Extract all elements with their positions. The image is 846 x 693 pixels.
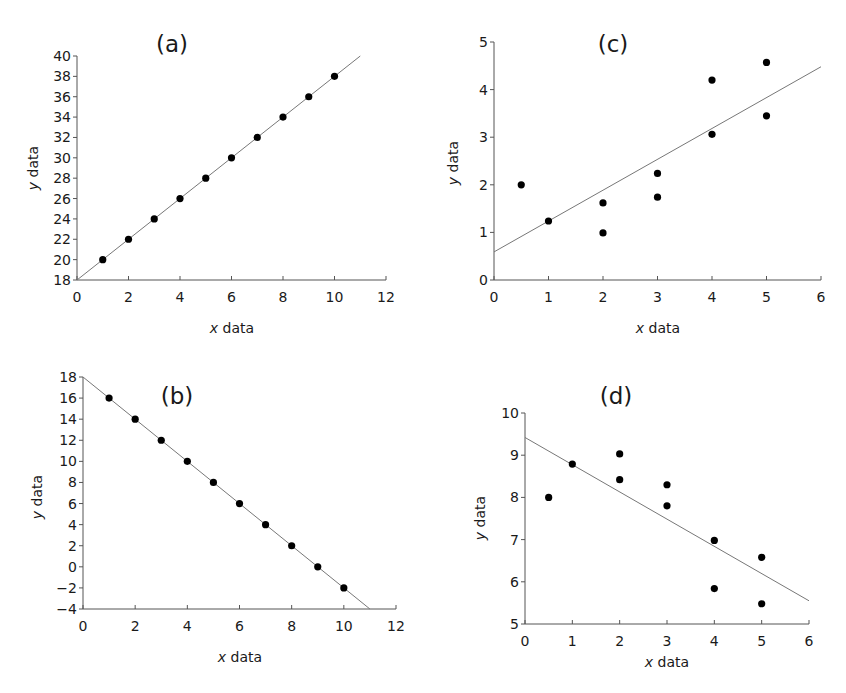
data-point <box>279 113 286 120</box>
y-tick-label: 5 <box>510 616 519 632</box>
panel-a: 182022242628303234363840024681012(a)x da… <box>25 31 395 336</box>
x-axis-label: x data <box>217 649 262 665</box>
fit-line <box>494 67 821 252</box>
x-tick-label: 4 <box>708 289 717 305</box>
x-axis-label: x data <box>635 320 680 336</box>
y-tick-label: 9 <box>510 447 519 463</box>
data-point <box>125 236 132 243</box>
data-point <box>758 600 765 607</box>
x-tick-label: 0 <box>79 618 88 634</box>
data-point <box>545 217 552 224</box>
y-tick-label: 14 <box>59 411 77 427</box>
data-point <box>184 458 191 465</box>
x-tick-label: 2 <box>599 289 608 305</box>
data-point <box>254 134 261 141</box>
y-tick-label: 6 <box>510 574 519 590</box>
data-point <box>314 563 321 570</box>
y-tick-label: 26 <box>53 191 71 207</box>
x-tick-label: 0 <box>73 289 82 305</box>
data-point <box>654 194 661 201</box>
y-tick-label: 4 <box>68 517 77 533</box>
x-tick-label: 10 <box>326 289 344 305</box>
x-tick-label: 0 <box>521 633 530 649</box>
y-axis-label: y data <box>25 146 41 191</box>
y-tick-label: 10 <box>59 453 77 469</box>
x-tick-label: 3 <box>663 633 672 649</box>
fit-line <box>77 56 360 280</box>
x-tick-label: 1 <box>544 289 553 305</box>
y-tick-label: 18 <box>59 369 77 385</box>
y-tick-label: 2 <box>68 538 77 554</box>
x-tick-label: 2 <box>124 289 133 305</box>
x-axis-label: x data <box>644 654 689 670</box>
panel-title: (d) <box>600 383 633 409</box>
x-tick-label: 3 <box>653 289 662 305</box>
panel-title: (b) <box>161 383 194 409</box>
data-point <box>663 502 670 509</box>
y-tick-label: 38 <box>53 68 71 84</box>
x-tick-label: 4 <box>710 633 719 649</box>
data-point <box>202 175 209 182</box>
y-tick-label: 20 <box>53 252 71 268</box>
y-tick-label: 6 <box>68 496 77 512</box>
x-tick-label: 4 <box>183 618 192 634</box>
y-tick-label: 0 <box>479 272 488 288</box>
y-tick-label: 30 <box>53 150 71 166</box>
y-axis-label: y data <box>29 475 45 520</box>
x-tick-label: 12 <box>377 289 395 305</box>
fit-line <box>525 437 809 600</box>
x-tick-label: 0 <box>490 289 499 305</box>
x-tick-label: 5 <box>757 633 766 649</box>
data-point <box>99 256 106 263</box>
x-tick-label: 12 <box>387 618 405 634</box>
data-point <box>616 450 623 457</box>
panel-b: −4−2024681012141618024681012(b)x datay d… <box>29 369 405 665</box>
data-point <box>176 195 183 202</box>
y-tick-label: 16 <box>59 390 77 406</box>
y-tick-label: 8 <box>68 474 77 490</box>
y-tick-label: 8 <box>510 489 519 505</box>
y-tick-label: 3 <box>479 129 488 145</box>
x-tick-label: 1 <box>568 633 577 649</box>
y-tick-label: 4 <box>479 82 488 98</box>
data-point <box>518 181 525 188</box>
data-point <box>105 394 112 401</box>
data-point <box>262 521 269 528</box>
data-point <box>288 542 295 549</box>
y-tick-label: 0 <box>68 559 77 575</box>
x-axis-label: x data <box>209 320 254 336</box>
y-tick-label: 2 <box>479 177 488 193</box>
data-point <box>545 494 552 501</box>
x-tick-label: 8 <box>287 618 296 634</box>
y-tick-label: 36 <box>53 89 71 105</box>
x-tick-label: 2 <box>615 633 624 649</box>
data-point <box>711 585 718 592</box>
y-tick-label: 10 <box>501 405 519 421</box>
data-point <box>599 229 606 236</box>
x-tick-label: 6 <box>805 633 814 649</box>
data-point <box>331 73 338 80</box>
data-point <box>151 215 158 222</box>
y-tick-label: 24 <box>53 211 71 227</box>
y-tick-label: 22 <box>53 231 71 247</box>
data-point <box>654 170 661 177</box>
y-tick-label: 32 <box>53 129 71 145</box>
data-point <box>708 76 715 83</box>
y-tick-label: 18 <box>53 272 71 288</box>
panel-title: (c) <box>598 31 629 57</box>
y-axis-label: y data <box>445 141 461 186</box>
figure: 182022242628303234363840024681012(a)x da… <box>0 0 846 693</box>
panel-c: 0123450123456(c)x datay data <box>445 31 826 336</box>
data-point <box>210 479 217 486</box>
data-point <box>708 131 715 138</box>
data-point <box>711 537 718 544</box>
data-point <box>158 437 165 444</box>
x-tick-label: 6 <box>235 618 244 634</box>
y-tick-label: 12 <box>59 432 77 448</box>
x-tick-label: 2 <box>131 618 140 634</box>
data-point <box>616 476 623 483</box>
x-tick-label: 5 <box>762 289 771 305</box>
y-tick-label: 40 <box>53 48 71 64</box>
y-tick-label: 28 <box>53 170 71 186</box>
data-point <box>132 416 139 423</box>
